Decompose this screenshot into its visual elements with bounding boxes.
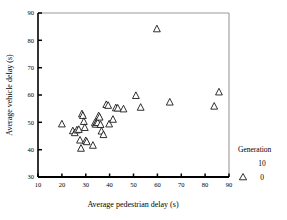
x-tick-label: 20 bbox=[59, 181, 66, 188]
x-tick-label: 50 bbox=[130, 181, 137, 188]
y-tick-label: 70 bbox=[28, 64, 35, 71]
data-point-marker bbox=[166, 98, 173, 105]
data-point-group bbox=[58, 25, 222, 151]
plot-frame bbox=[38, 13, 229, 177]
x-tick-label: 90 bbox=[226, 181, 233, 188]
y-tick-label: 80 bbox=[28, 37, 35, 44]
x-tick-label: 60 bbox=[154, 181, 161, 188]
data-point-marker bbox=[153, 25, 160, 32]
y-tick-label: 60 bbox=[28, 91, 35, 98]
x-tick-label: 30 bbox=[83, 181, 90, 188]
y-tick-labels: 90 80 70 60 50 40 30 bbox=[28, 9, 35, 180]
legend-title: Generation bbox=[238, 145, 272, 154]
data-point-marker bbox=[77, 136, 84, 143]
data-point-marker bbox=[132, 92, 139, 99]
y-tick-label: 90 bbox=[28, 9, 35, 16]
x-tick-label: 10 bbox=[35, 181, 42, 188]
data-point-marker bbox=[120, 105, 127, 112]
x-axis-title: Average pedestrian delay (s) bbox=[87, 200, 178, 209]
legend: Generation 10 0 bbox=[238, 145, 272, 182]
x-tick-label: 40 bbox=[106, 181, 113, 188]
y-tick-label: 30 bbox=[28, 173, 35, 180]
y-axis-title: Average vehicle delay (s) bbox=[5, 54, 14, 136]
data-point-marker bbox=[211, 103, 218, 110]
data-point-marker bbox=[58, 120, 65, 127]
x-tick-labels: 10 20 30 40 50 60 70 80 90 bbox=[35, 181, 233, 188]
data-point-marker bbox=[137, 104, 144, 111]
data-point-marker bbox=[110, 116, 117, 123]
legend-label-generation-10: 10 bbox=[258, 159, 266, 168]
x-tick-label: 80 bbox=[202, 181, 209, 188]
y-tick-label: 50 bbox=[28, 119, 35, 126]
x-tick-label: 70 bbox=[178, 181, 185, 188]
scatter-plot-figure: 90 80 70 60 50 40 30 10 20 30 40 50 60 7… bbox=[0, 0, 287, 220]
legend-marker-triangle-icon bbox=[239, 174, 246, 180]
y-tick-label: 40 bbox=[28, 146, 35, 153]
chart-svg: 90 80 70 60 50 40 30 10 20 30 40 50 60 7… bbox=[0, 0, 287, 220]
data-point-marker bbox=[78, 145, 85, 152]
data-point-marker bbox=[216, 88, 223, 95]
legend-label-generation-0: 0 bbox=[260, 173, 264, 182]
